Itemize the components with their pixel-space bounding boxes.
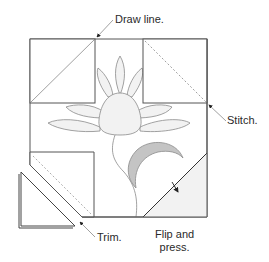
- label-flip-line1: Flip and: [155, 228, 194, 241]
- corner-square-top-left: [30, 39, 95, 103]
- trim-leader: [80, 222, 95, 237]
- label-draw-line: Draw line.: [115, 13, 164, 26]
- stitch-leader: [209, 105, 226, 121]
- label-flip-and-press: Flip and press.: [155, 228, 194, 254]
- quilt-block-diagram: [0, 0, 269, 262]
- label-flip-line2: press.: [155, 241, 194, 254]
- label-stitch: Stitch.: [227, 114, 258, 127]
- draw-line-leader: [97, 20, 113, 37]
- corner-square-top-right: [143, 39, 207, 103]
- corner-square-bottom-left: [30, 152, 94, 217]
- label-trim: Trim.: [97, 231, 122, 244]
